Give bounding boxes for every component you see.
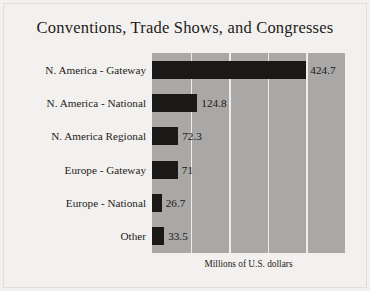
bar-row: N. America Regional72.3 xyxy=(0,120,370,153)
category-label: Europe - National xyxy=(0,197,146,209)
chart-title: Conventions, Trade Shows, and Congresses xyxy=(0,18,370,38)
category-label: Other xyxy=(0,230,146,242)
bar-row: Europe - National26.7 xyxy=(0,186,370,219)
bar-row: N. America - Gateway424.7 xyxy=(0,53,370,86)
bar-rows: N. America - Gateway424.7N. America - Na… xyxy=(0,53,370,253)
bar-row: Other33.5 xyxy=(0,220,370,253)
bar xyxy=(152,94,197,112)
bar-value-label: 124.8 xyxy=(201,97,226,109)
bar-row: Europe - Gateway71 xyxy=(0,153,370,186)
bar-value-label: 33.5 xyxy=(168,230,188,242)
bar-row: N. America - National124.8 xyxy=(0,86,370,119)
bar xyxy=(152,127,178,145)
chart-figure: Conventions, Trade Shows, and Congresses… xyxy=(0,0,370,291)
bar-value-label: 26.7 xyxy=(166,197,186,209)
bar xyxy=(152,161,178,179)
bar-value-label: 71 xyxy=(182,164,193,176)
category-label: N. America - Gateway xyxy=(0,64,146,76)
bar xyxy=(152,227,164,245)
category-label: N. America - National xyxy=(0,97,146,109)
bar xyxy=(152,61,306,79)
bar-value-label: 72.3 xyxy=(182,130,202,142)
category-label: Europe - Gateway xyxy=(0,164,146,176)
x-axis-caption: Millions of U.S. dollars xyxy=(152,259,345,269)
category-label: N. America Regional xyxy=(0,130,146,142)
bar xyxy=(152,194,162,212)
bar-value-label: 424.7 xyxy=(310,64,335,76)
